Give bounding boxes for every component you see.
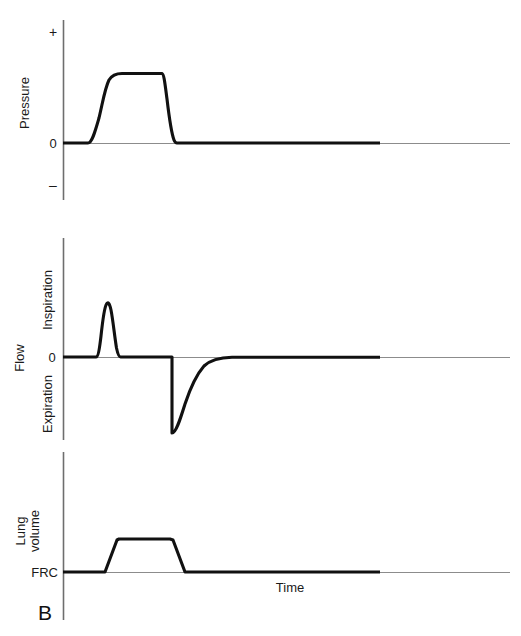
pressure-tick-zero: 0 [49,136,56,151]
pressure-tick-plus: + [49,24,57,40]
flow-tick-expiration: Expiration [40,375,55,433]
pressure-trace [63,74,380,144]
flow-tick-inspiration: Inspiration [40,270,55,330]
pressure-axis-title: Pressure [17,77,32,129]
lung-volume-axis-title-line2: volume [27,510,42,552]
panel-lung-volume: Lung volume FRC Time B [13,452,510,624]
panel-letter-b: B [38,601,52,624]
lung-volume-axis-title-line1: Lung [13,517,28,546]
panel-flow: Flow Inspiration 0 Expiration [12,238,510,440]
flow-axis-title: Flow [12,344,27,372]
ventilator-waveform-figure: Pressure + 0 – Flow Inspiration 0 Expira… [0,0,521,636]
time-axis-label: Time [276,580,304,595]
pressure-tick-minus: – [49,177,57,193]
flow-tick-zero: 0 [48,350,55,365]
panel-pressure: Pressure + 0 – [17,20,510,200]
lung-volume-trace [63,539,380,572]
flow-trace [63,303,380,433]
lung-volume-tick-frc: FRC [31,565,58,580]
